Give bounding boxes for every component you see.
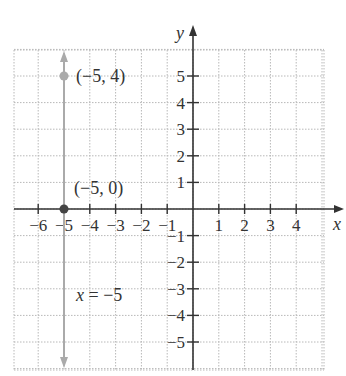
point-label-origin: (−5, 0) (74, 178, 123, 199)
point-marker (60, 72, 69, 81)
x-axis-label: x (332, 214, 341, 234)
y-tick-label: −5 (167, 333, 185, 352)
equation-var: x (75, 285, 84, 305)
x-tick-label: −4 (81, 216, 100, 235)
y-tick-label: −3 (167, 280, 185, 299)
coordinate-plane: −6−5−4−3−2−1123454321−1−2−3−4−5 y x (−5,… (0, 0, 346, 376)
x-tick-label: −6 (29, 216, 47, 235)
y-axis-label: y (174, 23, 184, 43)
y-tick-label: 2 (177, 147, 186, 166)
x-tick-label: 1 (215, 216, 224, 235)
line-arrow-up-icon (60, 51, 68, 62)
line-equation-label: x = −5 (75, 285, 122, 305)
point-label-top: (−5, 4) (76, 66, 125, 87)
y-tick-label: 3 (177, 120, 186, 139)
x-tick-label: −2 (132, 216, 150, 235)
y-tick-label: −4 (167, 306, 186, 325)
equation-rest: = −5 (84, 285, 122, 305)
x-tick-label: 2 (240, 216, 249, 235)
point-marker (60, 205, 69, 214)
y-tick-label: 4 (177, 94, 186, 113)
x-tick-label: −3 (107, 216, 125, 235)
x-axis-arrow-icon (334, 205, 344, 213)
y-axis-arrow-icon (189, 25, 197, 36)
line-arrow-down-icon (60, 357, 68, 368)
x-tick-label: 3 (266, 216, 275, 235)
y-tick-label: −1 (167, 227, 185, 246)
y-tick-label: 1 (177, 173, 186, 192)
x-tick-label: 4 (292, 216, 301, 235)
y-tick-label: 5 (177, 67, 186, 86)
y-tick-label: −2 (167, 253, 185, 272)
